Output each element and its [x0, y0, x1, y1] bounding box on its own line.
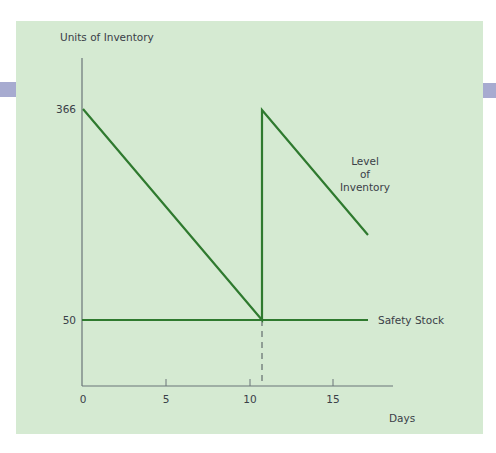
inventory-chart: Units of Inventory 366 50 0 5 10 15 Days…	[0, 0, 496, 453]
safety-stock-label: Safety Stock	[378, 314, 445, 326]
level-label-line1: Level	[351, 155, 379, 167]
y-axis-label: Units of Inventory	[60, 31, 154, 43]
x-tick-label-10: 10	[243, 393, 256, 405]
y-tick-label-50: 50	[63, 314, 76, 326]
level-label-line3: Inventory	[340, 181, 390, 193]
inventory-level-line	[83, 109, 368, 320]
level-label-line2: of	[360, 168, 370, 180]
x-tick-label-0: 0	[80, 393, 87, 405]
y-tick-label-366: 366	[56, 103, 76, 115]
x-tick-label-15: 15	[326, 393, 339, 405]
x-tick-label-5: 5	[163, 393, 170, 405]
x-axis-label: Days	[389, 412, 415, 424]
